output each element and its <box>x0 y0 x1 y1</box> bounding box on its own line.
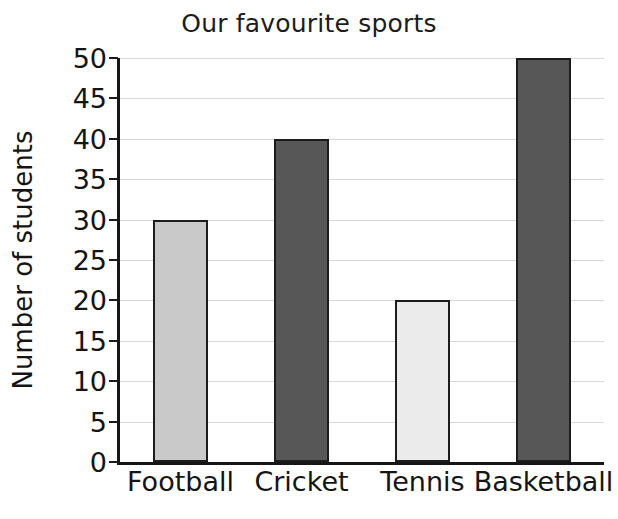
x-axis-category-labels: FootballCricketTennisBasketball <box>117 466 604 512</box>
y-axis-tick <box>109 178 118 180</box>
y-axis-tick <box>109 299 118 301</box>
cropped-text-strip: g p <box>0 0 618 9</box>
x-axis-spine <box>117 462 604 465</box>
plot-area <box>117 58 604 462</box>
y-axis-tick-label: 50 <box>73 43 107 74</box>
y-axis-tick <box>109 421 118 423</box>
y-axis-tick-label: 45 <box>73 83 107 114</box>
chart-title: Our favourite sports <box>0 9 618 38</box>
y-axis-tick-label: 25 <box>73 245 107 276</box>
bar-tennis <box>395 300 450 462</box>
y-axis-tick-label: 0 <box>90 447 107 478</box>
x-axis-label-basketball: Basketball <box>474 466 614 497</box>
y-axis-tick <box>109 259 118 261</box>
y-axis-tick-label: 35 <box>73 164 107 195</box>
bar-basketball <box>516 58 571 462</box>
y-axis-tick-label: 20 <box>73 285 107 316</box>
y-axis-tick <box>109 138 118 140</box>
bar-series <box>120 58 604 462</box>
y-axis-tick <box>109 219 118 221</box>
x-axis-label-tennis: Tennis <box>380 466 464 497</box>
y-axis-tick-label: 5 <box>90 406 107 437</box>
y-axis-tick <box>109 57 118 59</box>
y-axis-tick-labels: 05101520253035404550 <box>0 58 112 462</box>
y-axis-tick-label: 15 <box>73 325 107 356</box>
y-axis-tick <box>109 461 118 463</box>
x-axis-label-football: Football <box>127 466 234 497</box>
y-axis-tick-label: 30 <box>73 204 107 235</box>
bar-cricket <box>274 139 329 462</box>
bar-football <box>153 220 208 462</box>
chart-page: g p Our favourite sports Number of stude… <box>0 0 618 519</box>
y-axis-tick <box>109 340 118 342</box>
y-axis-tick <box>109 380 118 382</box>
y-axis-tick <box>109 97 118 99</box>
x-axis-label-cricket: Cricket <box>254 466 348 497</box>
y-axis-tick-label: 40 <box>73 123 107 154</box>
y-axis-tick-label: 10 <box>73 366 107 397</box>
